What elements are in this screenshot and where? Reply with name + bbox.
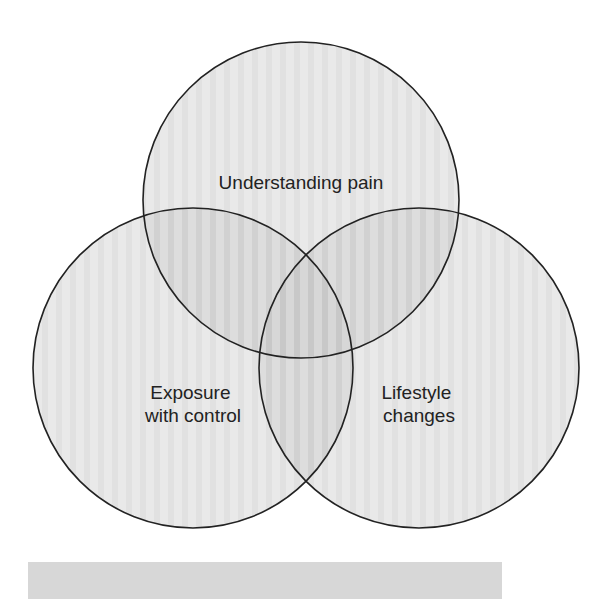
label-understanding-pain: Understanding pain bbox=[219, 172, 384, 193]
caption-bar bbox=[28, 562, 502, 599]
venn-diagram: Understanding pain Exposure with control… bbox=[0, 0, 603, 599]
